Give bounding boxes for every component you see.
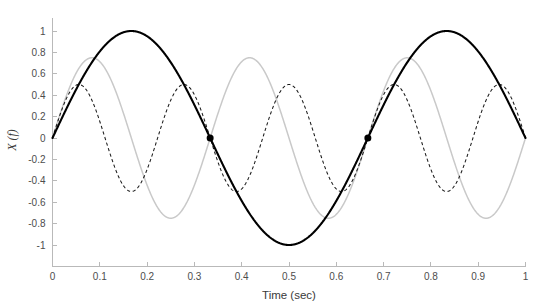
x-axis-ticks <box>53 262 526 267</box>
y-tick-label: -1 <box>37 240 46 251</box>
y-tick-label: -0.2 <box>28 154 46 165</box>
series-group <box>53 31 526 245</box>
x-axis-title: Time (sec) <box>262 289 316 301</box>
x-tick-label: 0.1 <box>93 271 107 282</box>
x-tick-label: 0.9 <box>471 271 485 282</box>
y-tick-label: 0.8 <box>32 47 46 58</box>
y-tick-label: 0.4 <box>32 90 46 101</box>
x-tick-label: 1 <box>523 271 529 282</box>
x-tick-label: 0.7 <box>377 271 391 282</box>
axes-lines <box>53 18 526 267</box>
y-tick-label: -0.8 <box>28 218 46 229</box>
x-tick-label: 0.2 <box>140 271 154 282</box>
x-tick-label: 0.4 <box>235 271 249 282</box>
y-tick-label: -0.4 <box>28 175 46 186</box>
y-tick-label: -0.6 <box>28 197 46 208</box>
y-tick-label: 1 <box>40 26 46 37</box>
y-tick-label: 0 <box>40 133 46 144</box>
line-chart: 10.80.60.40.20-0.2-0.4-0.6-0.8-1 00.10.2… <box>0 0 543 308</box>
x-tick-label: 0.8 <box>424 271 438 282</box>
x-axis-tick-labels: 00.10.20.30.40.50.60.70.80.91 <box>50 271 529 282</box>
marker-point <box>364 135 371 142</box>
y-tick-label: 0.6 <box>32 68 46 79</box>
y-axis-tick-labels: 10.80.60.40.20-0.2-0.4-0.6-0.8-1 <box>28 26 46 251</box>
figure-container: 10.80.60.40.20-0.2-0.4-0.6-0.8-1 00.10.2… <box>0 0 543 308</box>
y-axis-title: X (f) <box>5 129 19 152</box>
x-tick-label: 0.5 <box>282 271 296 282</box>
marker-point <box>207 135 214 142</box>
x-tick-label: 0.6 <box>329 271 343 282</box>
x-tick-label: 0.3 <box>187 271 201 282</box>
series-second-harmonic-line <box>53 58 526 219</box>
x-tick-label: 0 <box>50 271 56 282</box>
y-tick-label: 0.2 <box>32 111 46 122</box>
